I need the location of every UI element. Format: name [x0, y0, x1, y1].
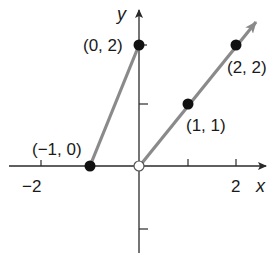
point-label-m1-0: (−1, 0)	[32, 140, 82, 159]
x-axis-label: x	[255, 176, 266, 196]
point-label-1-1: (1, 1)	[186, 116, 226, 135]
y-axis-label: y	[115, 4, 127, 24]
open-point-origin	[134, 161, 144, 171]
segment-left	[90, 45, 139, 166]
point-label-2-2: (2, 2)	[227, 58, 267, 77]
point-m1-0	[85, 161, 96, 172]
point-2-2	[231, 40, 242, 51]
point-1-1	[183, 99, 194, 110]
tick-label-2: 2	[231, 177, 240, 196]
point-label-0-2: (0, 2)	[83, 36, 123, 55]
piecewise-function-graph: y x −2 2 (−1, 0) (0, 2) (1, 1) (2, 2)	[0, 0, 275, 257]
point-0-2	[134, 40, 145, 51]
tick-label-neg2: −2	[22, 177, 41, 196]
